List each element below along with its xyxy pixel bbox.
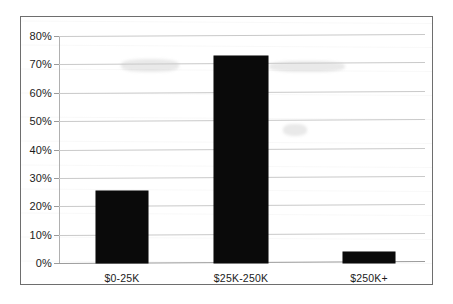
y-axis-label-20: 20%: [29, 200, 52, 212]
y-tick-70: [54, 64, 59, 65]
plot-area: 80% 70% 60% 50% 40% 30% 20% 10% 0% $0-25…: [59, 36, 425, 263]
y-axis-label-0: 0%: [36, 257, 52, 269]
x-axis-label-25k-250k: $25K-250K: [214, 272, 268, 284]
bar-25k-250k[interactable]: $25K-250K: [214, 56, 268, 263]
y-tick-0: [54, 263, 59, 264]
y-axis-label-10: 10%: [29, 229, 52, 241]
y-tick-30: [54, 178, 59, 179]
y-tick-40: [54, 150, 59, 151]
bar-0-25k[interactable]: $0-25K: [96, 191, 148, 263]
y-tick-80: [54, 36, 59, 37]
bar-250k-plus[interactable]: $250K+: [343, 252, 395, 263]
chart-frame: 80% 70% 60% 50% 40% 30% 20% 10% 0% $0-25…: [20, 16, 433, 285]
y-tick-20: [54, 206, 59, 207]
x-axis-label-0-25k: $0-25K: [104, 272, 139, 284]
gridline-80: [59, 34, 425, 37]
y-axis-label-30: 30%: [29, 172, 52, 184]
y-axis-label-40: 40%: [29, 144, 52, 156]
y-axis-label-80: 80%: [29, 30, 52, 42]
y-tick-50: [54, 121, 59, 122]
y-tick-10: [54, 235, 59, 236]
y-axis-label-60: 60%: [29, 87, 52, 99]
y-axis-label-50: 50%: [29, 115, 52, 127]
x-axis-label-250k-plus: $250K+: [350, 272, 388, 284]
y-axis-label-70: 70%: [29, 58, 52, 70]
y-tick-60: [54, 93, 59, 94]
